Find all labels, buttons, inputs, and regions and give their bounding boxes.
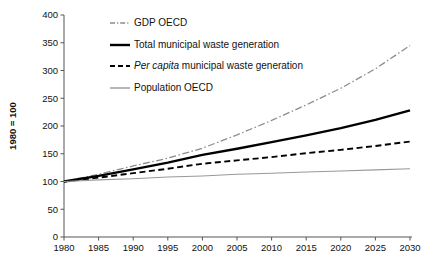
chart-legend: GDP OECDTotal municipal waste generation… [110,17,303,93]
line-chart: 050100150200250300350400 198019851990199… [0,0,442,266]
x-tick-label: 1980 [53,242,74,253]
y-tick-label: 350 [42,37,58,48]
x-tick-label: 1995 [157,242,178,253]
legend-label-2: Per capita municipal waste generation [134,60,303,71]
x-tick-label: 2000 [192,242,213,253]
x-tick-group: 1980198519901995200020052010201520202025… [53,237,420,253]
x-tick-label: 2010 [261,242,282,253]
y-axis: 050100150200250300350400 [42,9,64,242]
x-tick-label: 1985 [88,242,109,253]
y-tick-label: 250 [42,93,58,104]
x-tick-label: 2020 [330,242,351,253]
x-tick-label: 2030 [399,242,420,253]
x-tick-label: 2015 [296,242,317,253]
y-tick-label: 100 [42,176,58,187]
y-tick-label: 0 [53,231,58,242]
x-tick-label: 2005 [226,242,247,253]
y-tick-label: 200 [42,120,58,131]
y-axis-title: 1980 = 100 [7,102,18,150]
y-tick-label: 300 [42,65,58,76]
legend-label-0: GDP OECD [134,17,187,28]
y-tick-label: 50 [47,204,58,215]
x-tick-label: 2025 [365,242,386,253]
chart-container: 050100150200250300350400 198019851990199… [0,0,442,266]
series-line-2 [64,142,410,182]
legend-label-1: Total municipal waste generation [134,39,279,50]
y-tick-label: 150 [42,148,58,159]
y-tick-group: 050100150200250300350400 [42,9,64,242]
legend-label-3: Population OECD [134,82,213,93]
y-tick-label: 400 [42,9,58,20]
x-axis: 1980198519901995200020052010201520202025… [53,237,420,253]
x-tick-label: 1990 [123,242,144,253]
